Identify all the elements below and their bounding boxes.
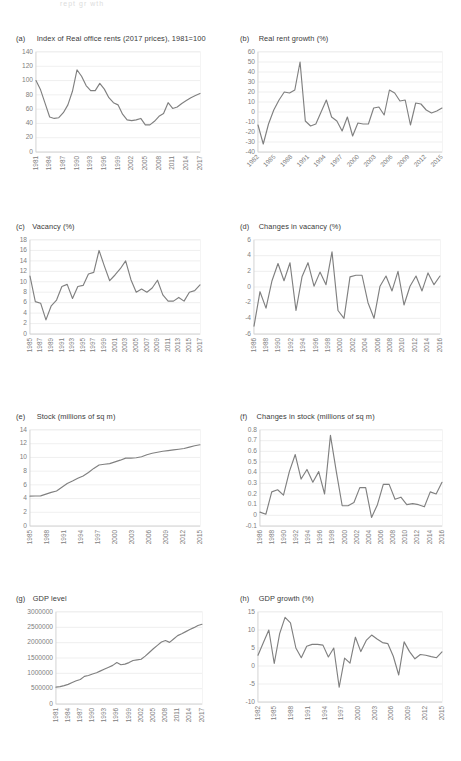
panel-h-chart: -10-505101519821985198819911994199720002… (234, 606, 452, 746)
xtick-label: 1994 (299, 338, 306, 353)
xtick-label: 1999 (114, 156, 121, 171)
xtick-label: 1984 (45, 156, 52, 171)
xtick-label: 2008 (389, 530, 396, 545)
panel-e-label: Stock (millions of sq m) (37, 412, 116, 421)
ytick-label: 0 (247, 283, 251, 290)
panel-c: (c) Vacancy (%) 024681012141618198519871… (0, 210, 230, 398)
panel-c-chart: 0246810121416181985198719891991199319951… (8, 234, 208, 382)
ytick-label: 20 (26, 133, 34, 140)
xtick-label: 2008 (155, 156, 162, 171)
panel-a-tag: (a) (16, 34, 25, 43)
xtick-label: 2010 (398, 338, 405, 353)
panel-c-tag: (c) (16, 222, 25, 231)
ytick-label: 16 (20, 246, 28, 253)
xtick-label: 1999 (100, 338, 107, 353)
ytick-label: 2500000 (27, 623, 53, 630)
xtick-label: 2017 (196, 156, 203, 171)
xtick-label: 2012 (179, 530, 186, 545)
ytick-label: 14 (20, 426, 28, 433)
chart-g-svg: 0500000100000015000002000000250000030000… (4, 606, 210, 748)
xtick-label: 2004 (365, 530, 372, 545)
panel-d-tag: (d) (240, 222, 249, 231)
xtick-label: 1986 (256, 530, 263, 545)
panel-g-tag: (g) (16, 594, 25, 603)
chart-h-svg: -10-505101519821985198819911994199720002… (234, 606, 452, 746)
xtick-label: 1988 (262, 338, 269, 353)
xtick-label: 2003 (362, 153, 377, 168)
ytick-label: 0.7 (248, 436, 257, 443)
xtick-label: 2014 (182, 156, 189, 171)
ytick-label: -2 (245, 298, 251, 305)
xtick-label: 2000 (111, 530, 118, 545)
ytick-label: 12 (20, 267, 28, 274)
ytick-label: 0.3 (248, 479, 257, 486)
ytick-label: 4 (23, 494, 27, 501)
xtick-label: 1997 (337, 706, 344, 721)
series-line (56, 624, 202, 687)
ytick-label: 6 (23, 481, 27, 488)
xtick-label: 2000 (345, 153, 360, 168)
ytick-label: 4 (247, 251, 251, 258)
panel-d-chart: -6-4-20246198619881990199219941996199820… (234, 234, 452, 382)
xtick-label: 2009 (404, 706, 411, 721)
xtick-label: 1987 (76, 708, 83, 723)
cut-off-header-text: rept gr wth (60, 0, 104, 7)
xtick-label: 1985 (26, 338, 33, 353)
xtick-label: 1992 (287, 338, 294, 353)
ytick-label: 100 (22, 76, 33, 83)
xtick-label: 2006 (374, 338, 381, 353)
xtick-label: 2007 (143, 338, 150, 353)
panel-e-title: (e) Stock (millions of sq m) (16, 412, 115, 421)
panel-e: (e) Stock (millions of sq m) 02468101214… (0, 398, 230, 588)
chart-e-svg: 0246810121419851988199119941997200020032… (8, 424, 208, 572)
ytick-label: 8 (23, 288, 27, 295)
ytick-label: 0.8 (248, 426, 257, 433)
ytick-label: 4 (23, 309, 27, 316)
xtick-label: 2017 (198, 708, 205, 723)
series-line (36, 70, 200, 125)
panel-b-tag: (b) (240, 34, 249, 43)
xtick-label: 1993 (100, 708, 107, 723)
xtick-label: 1988 (268, 530, 275, 545)
xtick-label: 2015 (185, 338, 192, 353)
panel-grid: (a) Index of Real office rents (2017 pri… (0, 18, 461, 761)
panel-d: (d) Changes in vacancy (%) -6-4-20246198… (230, 210, 461, 398)
xtick-label: 2011 (164, 338, 171, 352)
chart-a-svg: 0204060801001201401981198419871990199319… (8, 46, 208, 196)
xtick-label: 2008 (161, 708, 168, 723)
chart-f-svg: -0.100.10.20.30.40.50.60.70.819861988199… (234, 424, 452, 572)
panel-f: (f) Changes in stock (millions of sq m) … (230, 398, 461, 588)
xtick-label: 2002 (349, 338, 356, 353)
xtick-label: 1985 (262, 153, 277, 168)
panel-g-label: GDP level (33, 594, 67, 603)
xtick-label: 2003 (128, 530, 135, 545)
xtick-label: 2005 (132, 338, 139, 353)
ytick-label: 0 (29, 148, 33, 155)
xtick-label: 2006 (379, 153, 394, 168)
xtick-label: 1994 (321, 706, 328, 721)
xtick-label: 1986 (250, 338, 257, 353)
ytick-label: 0.5 (248, 458, 257, 465)
xtick-label: 2008 (386, 338, 393, 353)
ytick-label: 30 (248, 78, 256, 85)
xtick-label: 2000 (354, 706, 361, 721)
panel-a-label: Index of Real office rents (2017 prices)… (37, 34, 206, 43)
panel-b-label: Real rent growth (%) (259, 34, 329, 43)
xtick-label: 1988 (287, 706, 294, 721)
xtick-label: 2014 (185, 708, 192, 723)
ytick-label: 14 (20, 257, 28, 264)
xtick-label: 1981 (52, 708, 59, 723)
ytick-label: -10 (245, 118, 255, 125)
panel-f-title: (f) Changes in stock (millions of sq m) (240, 412, 375, 421)
ytick-label: 6 (247, 236, 251, 243)
xtick-label: 1994 (304, 530, 311, 545)
xtick-label: 1997 (89, 338, 96, 353)
panel-b-chart: -40-30-20-100102030405060198219851988199… (234, 46, 452, 196)
panel-h-label: GDP growth (%) (259, 594, 314, 603)
ytick-label: -6 (245, 330, 251, 337)
panel-g-title: (g) GDP level (16, 594, 67, 603)
series-line (30, 445, 200, 496)
xtick-label: 2005 (141, 156, 148, 171)
xtick-label: 1996 (312, 338, 319, 353)
ytick-label: -5 (249, 680, 255, 687)
